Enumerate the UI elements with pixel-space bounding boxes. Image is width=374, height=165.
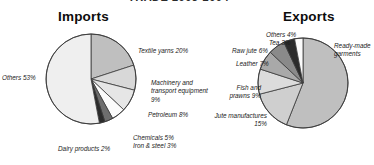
exports-label-ready-made-garments: Ready-made garments	[334, 42, 374, 59]
figure-title: TRADE 2003-2004	[0, 0, 357, 3]
exports-label-raw-jute: Raw jute 6%	[232, 47, 268, 55]
exports-label-leather: Leather 7%	[236, 60, 269, 68]
imports-label-machinery: Machinery and transport equipment 9%	[151, 79, 217, 104]
exports-label-tea: Tea 3%	[269, 39, 290, 47]
imports-label-dairy-products: Dairy products 2%	[58, 145, 110, 153]
imports-label-others: Others 53%	[2, 74, 36, 82]
imports-heading: Imports	[58, 9, 109, 24]
imports-label-textile-yarns: Textile yarns 20%	[138, 47, 188, 55]
imports-label-iron-steel: Iron & steel 3%	[133, 142, 176, 150]
exports-heading: Exports	[283, 9, 335, 24]
exports-label-jute-manufactures: Jute manufactures 15%	[205, 112, 267, 129]
imports-pie-chart	[44, 32, 138, 126]
exports-label-fish-and-prawns: Fish and prawns 9%	[221, 84, 261, 101]
imports-label-petroleum: Petroleum 8%	[148, 111, 188, 119]
